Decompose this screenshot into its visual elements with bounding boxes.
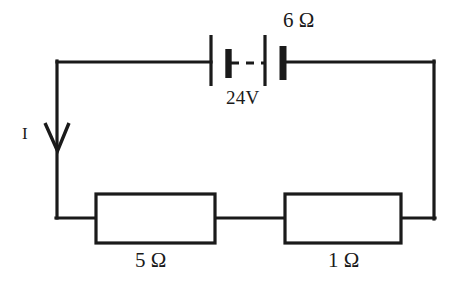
battery-symbol bbox=[211, 35, 283, 86]
circuit-diagram: 6 Ω 24V I 5 Ω 1 Ω bbox=[0, 0, 458, 288]
circuit-schematic-svg bbox=[0, 0, 458, 288]
label-resistor-left: 5 Ω bbox=[135, 250, 166, 271]
label-source-internal-resistance: 6 Ω bbox=[283, 10, 314, 31]
resistor-box-1-ohm bbox=[285, 194, 401, 243]
label-resistor-right: 1 Ω bbox=[328, 250, 359, 271]
resistor-box-5-ohm bbox=[96, 194, 215, 243]
label-current: I bbox=[22, 125, 28, 142]
label-source-voltage: 24V bbox=[226, 88, 260, 107]
